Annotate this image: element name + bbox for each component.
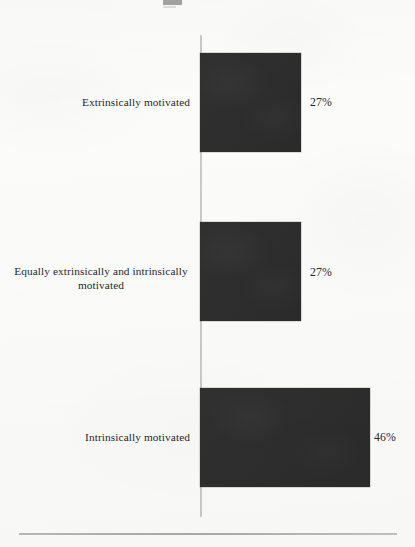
category-label-extrinsically-motivated: Extrinsically motivated [20, 95, 190, 109]
bar-equally-extrinsically-and-intrinsically-motivated [200, 222, 301, 321]
bar-extrinsically-motivated [200, 53, 301, 152]
plot-area: Extrinsically motivated 27% Equally extr… [0, 0, 415, 547]
value-label-equally-motivated: 27% [310, 265, 332, 279]
category-label-intrinsically-motivated: Intrinsically motivated [20, 430, 190, 444]
category-label-equally-motivated-line-2: motivated [12, 278, 190, 292]
bar-intrinsically-motivated [200, 388, 370, 487]
value-label-extrinsically-motivated: 27% [310, 95, 332, 109]
footer-caption [62, 538, 362, 547]
category-label-equally-motivated-line-1: Equally extrinsically and intrinsically [12, 264, 190, 278]
chart-figure: Extrinsically motivated 27% Equally extr… [0, 0, 415, 547]
value-label-intrinsically-motivated: 46% [374, 430, 396, 444]
footer-divider [19, 533, 397, 535]
